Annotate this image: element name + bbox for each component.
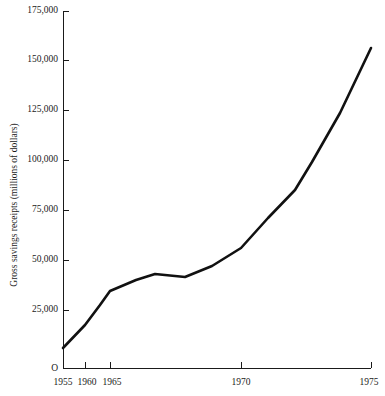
- x-axis-group: 1955 1960 1965 1970 1975: [54, 362, 379, 387]
- y-tick-label-125000: 125,000: [27, 104, 58, 114]
- y-axis-title: Gross savings receipts (millions of doll…: [9, 123, 20, 286]
- x-tick-label-1970: 1970: [232, 377, 251, 387]
- origin-label: O: [51, 363, 58, 373]
- x-tick-label-1960: 1960: [78, 377, 97, 387]
- y-axis-title-group: Gross savings receipts (millions of doll…: [9, 123, 20, 286]
- y-tick-label-25000: 25,000: [32, 304, 58, 314]
- y-tick-label-50000: 50,000: [32, 254, 58, 264]
- x-tick-marks: [63, 362, 371, 368]
- y-tick-label-150000: 150,000: [27, 54, 58, 64]
- x-tick-label-1965: 1965: [103, 377, 122, 387]
- y-axis-group: 175,000 150,000 125,000 100,000 75,000 5…: [27, 5, 69, 373]
- y-tick-label-100000: 100,000: [27, 154, 58, 164]
- x-tick-label-1975: 1975: [360, 377, 379, 387]
- y-tick-label-75000: 75,000: [32, 204, 58, 214]
- data-series-line: [63, 48, 371, 348]
- y-tick-labels: 175,000 150,000 125,000 100,000 75,000 5…: [27, 5, 58, 314]
- line-chart: 175,000 150,000 125,000 100,000 75,000 5…: [0, 0, 385, 396]
- x-tick-labels: 1955 1960 1965 1970 1975: [54, 377, 379, 387]
- x-tick-label-1955: 1955: [54, 377, 73, 387]
- chart-figure: 175,000 150,000 125,000 100,000 75,000 5…: [0, 0, 385, 396]
- y-tick-marks: [63, 11, 69, 310]
- y-tick-label-175000: 175,000: [27, 5, 58, 15]
